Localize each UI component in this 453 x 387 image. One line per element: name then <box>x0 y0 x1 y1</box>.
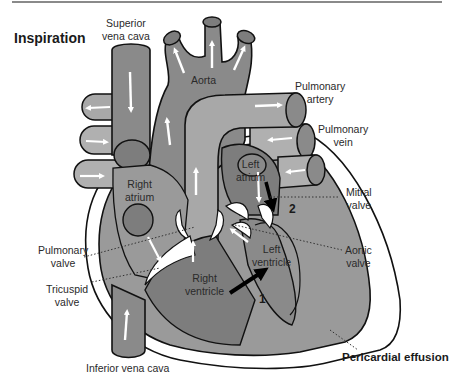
label-tricuspid-valve: Tricuspid valve <box>46 283 88 308</box>
label-line: vena cava <box>102 30 150 43</box>
label-line: Left <box>252 243 291 256</box>
aorta-branch-2 <box>203 17 221 27</box>
label-line: valve <box>46 296 88 309</box>
label-mitral-valve: Mitral valve <box>346 186 372 211</box>
label-pericardial-effusion: Pericardial effusion <box>342 351 449 364</box>
label-right-ventricle: Right ventricle <box>185 272 224 297</box>
label-superior-vena-cava: Superior vena cava <box>102 17 150 42</box>
label-line: valve <box>38 257 88 270</box>
marker-2: 2 <box>289 202 296 216</box>
label-line: Pulmonary <box>318 123 368 136</box>
label-line: Superior <box>102 17 150 30</box>
label-aortic-valve: Aortic valve <box>345 244 372 269</box>
marker-1: 1 <box>259 292 266 306</box>
label-line: valve <box>345 257 372 270</box>
label-pulmonary-artery: Pulmonary artery <box>295 80 345 105</box>
label-line: atrium <box>236 171 265 184</box>
label-line: ventricle <box>185 285 224 298</box>
label-line: Left <box>236 158 265 171</box>
page-title: Inspiration <box>14 30 86 46</box>
label-line: atrium <box>125 191 154 204</box>
label-right-atrium: Right atrium <box>125 178 154 203</box>
label-line: Pulmonary <box>38 244 88 257</box>
label-line: Aortic <box>345 244 372 257</box>
heart-diagram <box>0 0 453 387</box>
label-line: Right <box>125 178 154 191</box>
label-line: Mitral <box>346 186 372 199</box>
label-aorta: Aorta <box>191 74 216 87</box>
label-line: Tricuspid <box>46 283 88 296</box>
label-line: valve <box>346 199 372 212</box>
label-pulmonary-valve: Pulmonary valve <box>38 244 88 269</box>
label-line: Pulmonary <box>295 80 345 93</box>
label-line: artery <box>295 93 345 106</box>
label-line: ventricle <box>252 256 291 269</box>
label-left-ventricle: Left ventricle <box>252 243 291 268</box>
label-pulmonary-vein: Pulmonary vein <box>318 123 368 148</box>
label-line: vein <box>318 136 368 149</box>
label-line: Right <box>185 272 224 285</box>
label-inferior-vena-cava: Inferior vena cava <box>86 362 169 375</box>
label-left-atrium: Left atrium <box>236 158 265 183</box>
